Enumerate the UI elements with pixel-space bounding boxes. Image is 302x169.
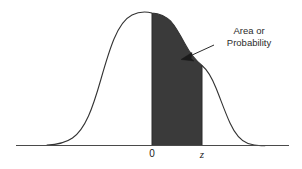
normal-distribution-figure: Area or Probability 0 z xyxy=(0,0,302,169)
axis-tick-label-z: z xyxy=(192,148,212,160)
area-probability-annotation: Area or Probability xyxy=(203,25,295,48)
annotation-line-1: Area or xyxy=(203,25,295,37)
shaded-area-region xyxy=(152,13,202,145)
annotation-line-2: Probability xyxy=(203,37,295,49)
axis-tick-label-zero: 0 xyxy=(142,148,162,159)
